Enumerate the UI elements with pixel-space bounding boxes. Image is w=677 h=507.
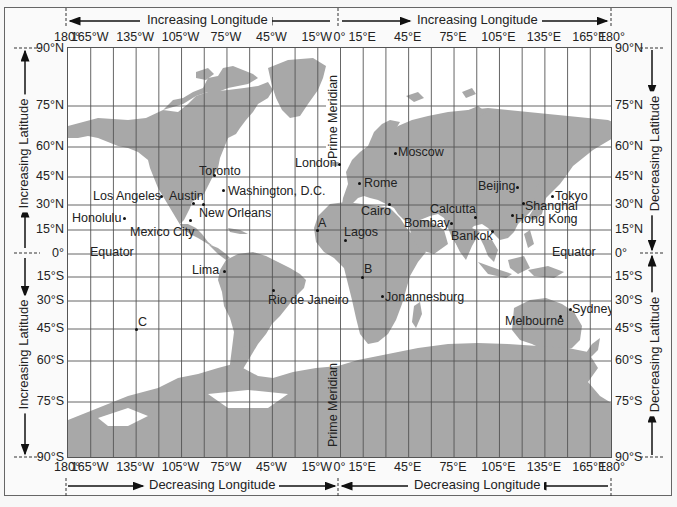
- city-dot-lagos: [344, 239, 347, 242]
- city-label-moscow: Moscow: [398, 145, 444, 159]
- latitude-tick: 30°S: [14, 293, 64, 307]
- city-label-rome: Rome: [364, 176, 397, 190]
- longitude-tick: 135°E: [527, 30, 561, 44]
- city-label-washington: Washington, D.C.: [228, 184, 326, 198]
- city-dot-lima: [223, 270, 226, 273]
- city-label-bankok: Bankok: [451, 229, 493, 243]
- latitude-tick: 30°N: [14, 197, 64, 211]
- top-left-longitude-label: Increasing Longitude: [143, 12, 272, 27]
- latitude-tick: 45°N: [615, 169, 665, 183]
- equator-label-right: Equator: [552, 245, 596, 259]
- latitude-tick: 75°S: [615, 394, 665, 408]
- city-label-bombay: Bombay: [404, 216, 450, 230]
- latitude-tick: 60°S: [615, 353, 665, 367]
- city-label-sydney: Sydney: [572, 302, 612, 316]
- latitude-tick: 45°S: [615, 321, 665, 335]
- left-top-latitude-label: Increasing Latitude: [16, 95, 31, 213]
- city-label-cairo: Cairo: [361, 204, 391, 218]
- city-label-mexico-city: Mexico City: [130, 225, 195, 239]
- latitude-tick: 30°N: [615, 197, 665, 211]
- world-map: Prime Meridian Prime Meridian Equator Eq…: [67, 47, 612, 458]
- latitude-tick: 0°: [14, 246, 64, 260]
- city-label-new-orleans: New Orleans: [199, 206, 271, 220]
- city-label-lagos: Lagos: [344, 225, 378, 239]
- equator-label-left: Equator: [90, 245, 134, 259]
- latitude-tick: 30°S: [615, 293, 665, 307]
- city-label-austin: Austin: [169, 189, 204, 203]
- city-dot-honolulu: [123, 217, 126, 220]
- latitude-tick: 0°: [615, 246, 665, 260]
- longitude-tick: 75°W: [211, 30, 242, 44]
- city-dot-washington: [222, 189, 225, 192]
- city-label-lima: Lima: [192, 263, 219, 277]
- city-dot-bombay: [450, 222, 453, 225]
- longitude-tick: 15°W: [301, 460, 332, 474]
- latitude-tick: 15°N: [14, 222, 64, 236]
- prime-meridian-label-top: Prime Meridian: [326, 72, 340, 162]
- latitude-tick: 60°N: [615, 139, 665, 153]
- city-label-london: London: [295, 156, 337, 170]
- longitude-tick: 105°W: [162, 460, 200, 474]
- longitude-tick: 135°W: [116, 30, 154, 44]
- city-dot-calcutta: [474, 216, 477, 219]
- city-label-johannesburg: Jonannesburg: [385, 290, 464, 304]
- city-dot-rio: [272, 289, 275, 292]
- city-label-toronto: Toronto: [199, 164, 241, 178]
- city-label-beijing: Beijing: [478, 179, 516, 193]
- latitude-tick: 90°S: [615, 450, 665, 464]
- latitude-tick: 75°N: [14, 98, 64, 112]
- city-label-honolulu: Honolulu: [72, 211, 121, 225]
- latitude-tick: 15°N: [615, 222, 665, 236]
- point-c-label: C: [138, 315, 147, 329]
- map-svg: [68, 48, 612, 458]
- latitude-tick: 75°N: [615, 98, 665, 112]
- city-label-melbourne: Melbourne: [505, 314, 564, 328]
- longitude-tick: 0°: [334, 460, 346, 474]
- longitude-tick: 15°E: [349, 460, 376, 474]
- longitude-tick: 45°E: [394, 460, 421, 474]
- latitude-tick: 45°N: [14, 169, 64, 183]
- bottom-left-longitude-label: Decreasing Longitude: [145, 477, 279, 492]
- longitude-tick: 105°E: [481, 30, 515, 44]
- latitude-tick: 90°N: [615, 41, 665, 55]
- latitude-tick: 75°S: [14, 394, 64, 408]
- longitude-tick: 105°W: [162, 30, 200, 44]
- longitude-tick: 75°E: [439, 30, 466, 44]
- city-dot-rome: [358, 182, 361, 185]
- top-right-longitude-label: Increasing Longitude: [413, 12, 542, 27]
- point-b-label: B: [364, 262, 372, 276]
- city-dot-tokyo: [551, 195, 554, 198]
- longitude-tick: 165°W: [71, 460, 109, 474]
- latitude-tick: 60°N: [14, 139, 64, 153]
- latitude-tick: 45°S: [14, 321, 64, 335]
- latitude-tick: 90°S: [14, 450, 64, 464]
- city-label-hong-kong: Hong Kong: [515, 212, 578, 226]
- longitude-tick: 45°W: [256, 30, 287, 44]
- point-b-dot: [361, 276, 364, 279]
- longitude-tick: 75°W: [211, 460, 242, 474]
- city-label-tokyo: Tokyo: [555, 189, 588, 203]
- latitude-tick: 60°S: [14, 353, 64, 367]
- latitude-tick: 15°S: [14, 269, 64, 283]
- longitude-tick: 45°E: [394, 30, 421, 44]
- bottom-right-longitude-label: Decreasing Longitude: [410, 477, 544, 492]
- longitude-tick: 105°E: [481, 460, 515, 474]
- longitude-tick: 45°W: [256, 460, 287, 474]
- landmasses: [68, 58, 612, 458]
- city-label-calcutta: Calcutta: [430, 202, 476, 216]
- city-dot-mexico-city: [189, 219, 192, 222]
- city-dot-johannesburg: [381, 295, 384, 298]
- city-dot-london: [338, 163, 341, 166]
- city-dot-hong-kong: [511, 214, 514, 217]
- longitude-tick: 15°W: [301, 30, 332, 44]
- prime-meridian-label-bottom: Prime Meridian: [326, 360, 340, 450]
- longitude-tick: 0°: [334, 30, 346, 44]
- city-label-los-angeles: Los Angeles: [93, 189, 161, 203]
- longitude-tick: 165°W: [71, 30, 109, 44]
- city-dot-moscow: [394, 152, 397, 155]
- city-dot-beijing: [516, 186, 519, 189]
- city-label-rio: Rio de Janeiro: [268, 293, 349, 307]
- latitude-tick: 15°S: [615, 269, 665, 283]
- longitude-tick: 135°W: [116, 460, 154, 474]
- point-a-label: A: [318, 216, 326, 230]
